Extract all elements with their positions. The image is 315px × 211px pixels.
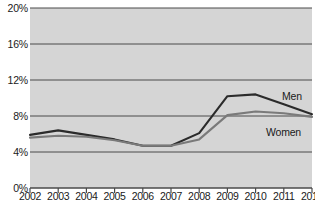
unemployment-rate-line-chart: 0%4%8%12%16%20% Men Women 20022003200420… <box>0 0 315 211</box>
x-axis-tick-label: 2012 <box>295 191 315 202</box>
series-label-women: Women <box>266 126 301 138</box>
series-lines-group <box>30 94 312 145</box>
chart-vector-layer <box>0 0 315 211</box>
series-line-men <box>30 94 312 145</box>
series-label-men: Men <box>282 90 302 102</box>
gridlines-group <box>30 8 312 188</box>
